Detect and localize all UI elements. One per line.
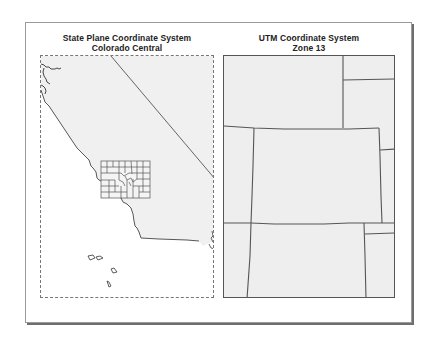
new-mexico-colorado-border: [224, 223, 395, 224]
state-plane-map-graphic: [41, 56, 214, 298]
sd-ne-border: [343, 79, 395, 80]
oklahoma-panhandle-border: [365, 233, 395, 234]
nebraska-kansas-border: [380, 149, 395, 150]
colorado-counties: [101, 161, 150, 198]
map-state-plane[interactable]: [40, 55, 214, 298]
title-line-2: Colorado Central: [27, 43, 227, 53]
title-line-1: UTM Coordinate System: [209, 33, 409, 43]
map-utm-zone13[interactable]: [223, 55, 395, 298]
title-line-2: Zone 13: [209, 43, 409, 53]
panel-title-utm: UTM Coordinate System Zone 13: [209, 33, 409, 53]
panel-title-state-plane: State Plane Coordinate System Colorado C…: [27, 33, 227, 53]
utm-map-graphic: [224, 56, 395, 298]
kansas-colorado-border: [379, 128, 382, 223]
wyoming-colorado-border: [224, 126, 379, 129]
title-line-1: State Plane Coordinate System: [27, 33, 227, 43]
utah-colorado-border: [247, 128, 254, 298]
state-boundaries: [224, 56, 395, 298]
